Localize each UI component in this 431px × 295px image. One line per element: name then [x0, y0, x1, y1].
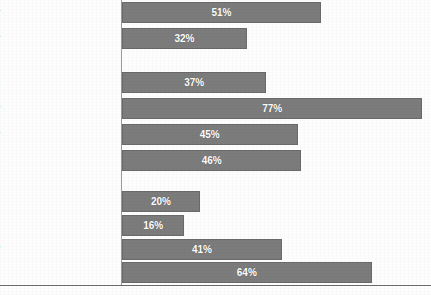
category-axis-baseline — [0, 285, 431, 286]
bar-track: 16% — [122, 215, 184, 236]
bar-track: 77% — [122, 98, 422, 119]
bar-track: 32% — [122, 28, 247, 49]
horizontal-bar-chart: Poor51%Near Poor32%All Children37%Childr… — [0, 0, 431, 295]
bar-value-label: 45% — [122, 124, 298, 145]
bar-value-label: 51% — [122, 2, 321, 23]
bar-value-label: 32% — [122, 28, 247, 49]
plot-area: Poor51%Near Poor32%All Children37%Childr… — [0, 0, 431, 295]
bar-value-label: 37% — [122, 72, 266, 93]
bar-track: 46% — [122, 150, 301, 171]
bar-value-label: 20% — [122, 191, 200, 212]
bar-track: 41% — [122, 239, 282, 260]
bar-track: 64% — [122, 262, 372, 283]
bar-value-label: 41% — [122, 239, 282, 260]
bar-value-label: 64% — [122, 262, 372, 283]
bar-track: 20% — [122, 191, 200, 212]
bar-track: 51% — [122, 2, 321, 23]
bar-track: 45% — [122, 124, 298, 145]
bar-value-label: 46% — [122, 150, 301, 171]
bar-track: 37% — [122, 72, 266, 93]
bar-value-label: 16% — [122, 215, 184, 236]
bar-value-label: 77% — [122, 98, 422, 119]
